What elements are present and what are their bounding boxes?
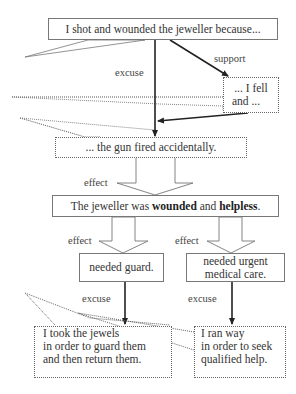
gun-fired-box: ... the gun fired accidentally. <box>55 137 247 158</box>
gun-fired-text: ... the gun fired accidentally. <box>86 141 217 154</box>
medical-line-1: needed urgent <box>203 255 268 268</box>
ran-line-1: I ran way <box>201 327 244 340</box>
claim-callout-tail <box>25 40 145 57</box>
ran-line-2: in order to seek <box>201 340 272 353</box>
fell-box: ... I fell and ... <box>223 77 279 113</box>
jeweller-text-post: . <box>258 200 261 212</box>
jewels-line-1: I took the jewels <box>43 327 119 340</box>
medical-line-2: medical care. <box>205 268 266 281</box>
jeweller-text-wounded: wounded <box>152 200 197 212</box>
jeweller-text-helpless: helpless <box>219 200 257 212</box>
claim-text: I shot and wounded the jeweller because.… <box>65 23 260 36</box>
jeweller-text-pre: The jeweller was <box>71 200 152 212</box>
fell-line-2: and ... <box>224 95 260 108</box>
jewels-line-3: and then return them. <box>43 353 141 366</box>
needed-guard-text: needed guard. <box>89 261 154 274</box>
effect-left-hollow-arrow <box>99 217 148 253</box>
ran-away-box: I ran way in order to seek qualified hel… <box>194 326 286 378</box>
effect-right-hollow-arrow <box>207 217 255 253</box>
gun-callout-tail-b <box>20 118 155 130</box>
edge-label-support: support <box>214 53 246 64</box>
gun-callout-tail <box>20 118 100 137</box>
effect-center-hollow-arrow <box>117 157 193 195</box>
jewels-box: I took the jewels in order to guard them… <box>34 326 172 378</box>
edge-label-effect-right: effect <box>175 235 199 246</box>
jeweller-box: The jeweller was wounded and helpless. <box>52 195 279 217</box>
jeweller-text-mid: and <box>197 200 219 212</box>
edge-label-effect-center: effect <box>84 177 108 188</box>
jeweller-text: The jeweller was wounded and helpless. <box>71 200 261 213</box>
fell-to-main-arrow <box>158 113 248 121</box>
edge-label-excuse-top: excuse <box>115 67 144 78</box>
edge-label-excuse-right: excuse <box>188 293 217 304</box>
edge-label-excuse-left: excuse <box>82 293 111 304</box>
fell-callout-tail-lower <box>12 97 223 110</box>
needed-guard-box: needed guard. <box>79 253 164 282</box>
ran-line-3: qualified help. <box>201 353 267 366</box>
fell-line-1: ... I fell <box>234 82 268 95</box>
medical-care-box: needed urgent medical care. <box>186 253 285 282</box>
edge-label-effect-left: effect <box>68 235 92 246</box>
jewels-line-2: in order to guard them <box>43 340 146 353</box>
claim-box: I shot and wounded the jeweller because.… <box>48 18 278 40</box>
